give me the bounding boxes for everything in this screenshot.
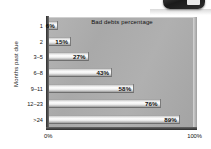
bar-row: 58% — [49, 80, 196, 96]
y-tick-label: 12–23 — [8, 97, 45, 113]
screenshot-root: Months past due 1 2 3–5 6–8 9–11 12–23 >… — [0, 0, 211, 149]
bar-chart: Months past due 1 2 3–5 6–8 9–11 12–23 >… — [0, 0, 211, 149]
bar-value-label: 58% — [119, 84, 132, 91]
y-tick-label: 1 — [8, 18, 45, 34]
x-axis-line — [46, 127, 197, 130]
bar[interactable]: 6% — [49, 21, 58, 30]
bar-row: 6% — [49, 18, 196, 34]
bar-row: 89% — [49, 111, 196, 127]
y-tick-label: 9–11 — [8, 81, 45, 97]
bar-row: 15% — [49, 34, 196, 50]
y-axis-tick-labels: 1 2 3–5 6–8 9–11 12–23 >24 — [8, 18, 45, 128]
bar-row: 76% — [49, 96, 196, 112]
y-tick-label: 3–5 — [8, 49, 45, 65]
bar-value-label: 76% — [145, 100, 158, 107]
bar[interactable]: 76% — [49, 99, 161, 108]
bar-series: 6% 15% 27% 43% 58% — [49, 18, 196, 127]
y-tick-label: 6–8 — [8, 65, 45, 81]
bar-row: 27% — [49, 49, 196, 65]
bar[interactable]: 15% — [49, 37, 71, 46]
bar-value-label: 6% — [46, 22, 55, 29]
x-tick-label-min: 0% — [44, 133, 52, 139]
y-tick-label: >24 — [8, 112, 45, 128]
x-axis-tick-labels: 0% 100% — [46, 133, 198, 139]
bar[interactable]: 27% — [49, 52, 89, 61]
bar-value-label: 43% — [97, 69, 110, 76]
bar-value-label: 89% — [164, 115, 177, 122]
y-tick-label: 2 — [8, 34, 45, 50]
bar-row: 43% — [49, 65, 196, 81]
bar-value-label: 27% — [73, 53, 86, 60]
bar[interactable]: 58% — [49, 84, 134, 93]
bar[interactable]: 89% — [49, 115, 180, 124]
bar[interactable]: 43% — [49, 68, 112, 77]
x-tick-label-max: 100% — [187, 133, 202, 139]
bar-value-label: 15% — [55, 37, 68, 44]
